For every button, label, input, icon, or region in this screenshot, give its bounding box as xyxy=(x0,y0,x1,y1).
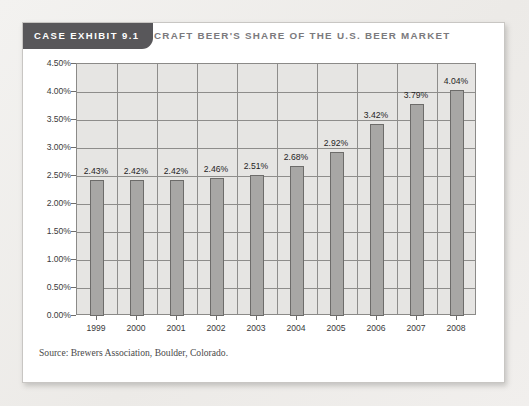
bar xyxy=(330,152,344,316)
x-axis-tick-label: 2006 xyxy=(366,323,385,333)
y-axis-tick-mark xyxy=(71,315,76,316)
y-axis-tick-mark xyxy=(71,147,76,148)
bar xyxy=(90,180,104,316)
x-axis-tick-mark xyxy=(416,315,417,320)
y-axis-tick-label: 0.50% xyxy=(47,282,71,292)
x-axis-tick-label: 2000 xyxy=(126,323,145,333)
x-axis-tick-label: 1999 xyxy=(86,323,105,333)
bar-value-label: 2.51% xyxy=(244,161,268,171)
y-axis-tick-mark xyxy=(71,91,76,92)
bar-value-label: 4.04% xyxy=(444,76,468,86)
chart-area: 0.00%0.50%1.00%1.50%2.00%2.50%3.00%3.50%… xyxy=(23,49,506,384)
y-axis-tick-label: 2.50% xyxy=(47,170,71,180)
y-axis-labels: 0.00%0.50%1.00%1.50%2.00%2.50%3.00%3.50%… xyxy=(23,63,71,315)
x-axis-tick-mark xyxy=(256,315,257,320)
bar xyxy=(130,180,144,316)
bar xyxy=(170,180,184,316)
x-axis-tick-mark xyxy=(376,315,377,320)
y-axis-tick-mark xyxy=(71,203,76,204)
source-note: Source: Brewers Association, Boulder, Co… xyxy=(39,347,228,358)
bar-value-label: 2.43% xyxy=(84,166,108,176)
category-separator-line xyxy=(237,64,238,314)
y-axis-tick-mark xyxy=(71,63,76,64)
x-axis-tick-mark xyxy=(176,315,177,320)
y-axis-tick-label: 3.50% xyxy=(47,114,71,124)
x-axis-tick-mark xyxy=(136,315,137,320)
y-axis-tick-label: 3.00% xyxy=(47,142,71,152)
exhibit-number-label: CASE EXHIBIT 9.1 xyxy=(34,30,140,41)
y-axis-tick-mark xyxy=(71,287,76,288)
x-axis-tick-label: 2004 xyxy=(286,323,305,333)
bar-value-label: 2.68% xyxy=(284,152,308,162)
plot-area xyxy=(76,63,476,315)
category-separator-line xyxy=(197,64,198,314)
y-axis-tick-mark xyxy=(71,119,76,120)
y-axis-tick-label: 1.00% xyxy=(47,254,71,264)
y-axis-tick-mark xyxy=(71,175,76,176)
x-axis-tick-label: 2003 xyxy=(246,323,265,333)
category-separator-line xyxy=(317,64,318,314)
category-separator-line xyxy=(157,64,158,314)
bar xyxy=(370,124,384,316)
category-separator-line xyxy=(397,64,398,314)
y-axis-tick-label: 4.00% xyxy=(47,86,71,96)
category-separator-line xyxy=(357,64,358,314)
bar-value-label: 2.46% xyxy=(204,164,228,174)
x-axis-tick-mark xyxy=(96,315,97,320)
exhibit-title: CRAFT BEER'S SHARE OF THE U.S. BEER MARK… xyxy=(154,30,451,41)
category-separator-line xyxy=(277,64,278,314)
bar-value-label: 2.42% xyxy=(164,166,188,176)
bar xyxy=(290,166,304,316)
y-axis-tick-label: 1.50% xyxy=(47,226,71,236)
x-axis-tick-label: 2002 xyxy=(206,323,225,333)
bar xyxy=(450,90,464,316)
bar-value-label: 3.42% xyxy=(364,110,388,120)
category-separator-line xyxy=(437,64,438,314)
bar-value-label: 2.42% xyxy=(124,166,148,176)
x-axis-tick-mark xyxy=(216,315,217,320)
x-axis-tick-label: 2001 xyxy=(166,323,185,333)
x-axis-tick-label: 2005 xyxy=(326,323,345,333)
x-axis-tick-mark xyxy=(456,315,457,320)
bar xyxy=(410,104,424,316)
y-axis-tick-mark xyxy=(71,231,76,232)
x-axis-tick-label: 2008 xyxy=(446,323,465,333)
bar xyxy=(250,175,264,316)
exhibit-card: CASE EXHIBIT 9.1 CRAFT BEER'S SHARE OF T… xyxy=(22,22,505,383)
y-axis-tick-label: 2.00% xyxy=(47,198,71,208)
x-axis-tick-label: 2007 xyxy=(406,323,425,333)
x-axis-tick-mark xyxy=(336,315,337,320)
y-axis-tick-label: 0.00% xyxy=(47,310,71,320)
x-axis-tick-mark xyxy=(296,315,297,320)
bar-value-label: 2.92% xyxy=(324,138,348,148)
bar xyxy=(210,178,224,316)
y-axis-tick-mark xyxy=(71,259,76,260)
category-separator-line xyxy=(117,64,118,314)
exhibit-header: CASE EXHIBIT 9.1 CRAFT BEER'S SHARE OF T… xyxy=(23,23,506,49)
y-axis-tick-label: 4.50% xyxy=(47,58,71,68)
bar-value-label: 3.79% xyxy=(404,90,428,100)
